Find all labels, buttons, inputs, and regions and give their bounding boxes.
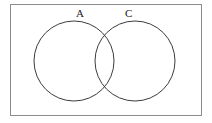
universal-set-rectangle <box>11 5 202 116</box>
venn-diagram-canvas <box>0 0 212 123</box>
set-label-a: A <box>76 8 84 19</box>
venn-diagram-figure: A C <box>0 0 212 123</box>
set-label-c: C <box>125 8 132 19</box>
